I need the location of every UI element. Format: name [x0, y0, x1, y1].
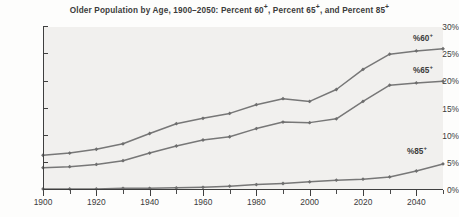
- data-point-marker: [174, 186, 178, 190]
- data-point-marker: [281, 97, 285, 101]
- data-point-marker: [441, 47, 445, 51]
- data-point-marker: [281, 182, 285, 186]
- series-65: [41, 79, 445, 169]
- data-point-marker: [254, 103, 258, 107]
- series-label-60: %60+: [413, 32, 433, 43]
- data-point-marker: [334, 178, 338, 182]
- series-line: [43, 81, 443, 167]
- data-point-marker: [361, 177, 365, 181]
- data-point-marker: [174, 122, 178, 126]
- series-85: [41, 162, 445, 191]
- series-label-85: %85+: [407, 145, 427, 156]
- data-point-marker: [228, 135, 232, 139]
- data-point-marker: [254, 183, 258, 187]
- data-point-marker: [94, 163, 98, 167]
- series-60: [41, 47, 445, 157]
- series-line: [43, 49, 443, 156]
- series-label-superscript: +: [429, 32, 433, 38]
- series-label-superscript: +: [423, 145, 427, 151]
- data-point-marker: [121, 159, 125, 163]
- data-point-marker: [41, 153, 45, 157]
- data-point-marker: [94, 147, 98, 151]
- data-point-marker: [174, 144, 178, 148]
- data-point-marker: [94, 187, 98, 191]
- data-point-marker: [68, 165, 72, 169]
- data-point-marker: [148, 151, 152, 155]
- data-point-marker: [414, 81, 418, 85]
- data-point-marker: [201, 116, 205, 120]
- series-label-text: %65: [413, 66, 429, 75]
- data-point-marker: [148, 132, 152, 136]
- data-point-marker: [68, 187, 72, 191]
- data-point-marker: [41, 187, 45, 191]
- series-layer: [0, 0, 459, 217]
- data-point-marker: [121, 186, 125, 190]
- data-point-marker: [228, 111, 232, 115]
- data-point-marker: [308, 121, 312, 125]
- series-label-text: %60: [413, 33, 429, 42]
- series-label-text: %85: [407, 147, 423, 156]
- series-line: [43, 164, 443, 189]
- data-point-marker: [68, 151, 72, 155]
- data-point-marker: [41, 166, 45, 170]
- data-point-marker: [414, 49, 418, 53]
- data-point-marker: [281, 120, 285, 124]
- data-point-marker: [441, 162, 445, 166]
- data-point-marker: [228, 184, 232, 188]
- data-point-marker: [148, 186, 152, 190]
- data-point-marker: [308, 180, 312, 184]
- data-point-marker: [441, 79, 445, 83]
- series-label-superscript: +: [429, 64, 433, 70]
- data-point-marker: [414, 169, 418, 173]
- data-point-marker: [121, 142, 125, 146]
- data-point-marker: [201, 138, 205, 142]
- data-point-marker: [201, 185, 205, 189]
- series-label-65: %65+: [413, 64, 433, 75]
- chart-screenshot: Older Population by Age, 1900–2050: Perc…: [0, 0, 459, 217]
- data-point-marker: [388, 175, 392, 179]
- data-point-marker: [254, 127, 258, 131]
